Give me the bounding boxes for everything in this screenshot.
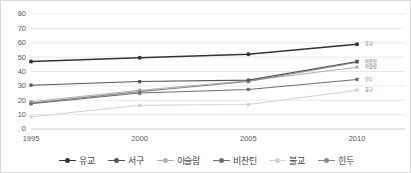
data-point-marker: [355, 60, 358, 63]
x-axis-tick-label: 2010: [349, 134, 366, 143]
legend-item-유교[interactable]: 유교: [59, 154, 95, 167]
legend-item-비잔틴[interactable]: 비잔틴: [213, 154, 256, 167]
series-line: [31, 44, 357, 61]
data-point-marker: [138, 91, 141, 94]
legend-item-label: 이슬람: [177, 154, 200, 167]
legend-item-label: 서구: [128, 154, 144, 167]
legend-item-label: 비잔틴: [233, 154, 256, 167]
series-5: [29, 61, 358, 105]
legend-item-서구[interactable]: 서구: [108, 154, 144, 167]
data-point-marker: [29, 59, 33, 63]
y-axis-tick-label: 20: [18, 96, 26, 105]
y-axis-tick-label: 40: [18, 67, 26, 76]
legend-item-label: 불교: [289, 154, 305, 167]
y-axis-tick-label: 80: [18, 9, 26, 18]
legend-item-불교[interactable]: 불교: [269, 154, 305, 167]
data-point-marker: [355, 78, 358, 81]
series-end-label: 유교: [365, 41, 373, 47]
data-point-marker: [29, 115, 32, 118]
data-point-marker: [246, 52, 250, 56]
chart-container: 807060504030201001995200020052010유교비잔틴이슬…: [0, 0, 411, 173]
data-point-marker: [247, 79, 250, 82]
y-axis-tick-label: 50: [18, 53, 26, 62]
legend-item-label: 힌두: [338, 154, 354, 167]
data-point-marker: [247, 103, 250, 106]
series-end-label: 불교: [365, 86, 373, 92]
y-axis-tick-label: 10: [18, 110, 26, 119]
legend-marker-icon: [213, 157, 230, 165]
data-point-marker: [355, 89, 358, 92]
legend-marker-icon: [269, 157, 286, 165]
data-point-marker: [138, 56, 142, 60]
series-3: [29, 78, 358, 106]
data-point-marker: [29, 84, 32, 87]
legend-marker-icon: [157, 157, 174, 165]
data-point-marker: [138, 104, 141, 107]
data-point-marker: [138, 80, 141, 83]
legend-item-힌두[interactable]: 힌두: [318, 154, 354, 167]
legend-item-이슬람[interactable]: 이슬람: [157, 154, 200, 167]
series-end-label: 힌두: [365, 76, 373, 83]
plot-area: 807060504030201001995200020052010유교비잔틴이슬…: [1, 1, 411, 147]
legend-marker-icon: [108, 157, 125, 165]
series-line: [31, 90, 357, 117]
chart-legend: 유교서구이슬람비잔틴불교힌두: [1, 148, 411, 173]
x-axis-tick-label: 2000: [131, 134, 148, 143]
data-point-marker: [29, 102, 32, 105]
series-end-label: 이슬람: [365, 63, 377, 70]
line-chart-svg: 807060504030201001995200020052010유교비잔틴이슬…: [1, 1, 411, 147]
legend-item-label: 유교: [79, 154, 95, 167]
y-axis-tick-label: 30: [18, 81, 26, 90]
y-axis-tick-label: 0: [22, 124, 26, 133]
data-point-marker: [355, 66, 358, 69]
legend-marker-icon: [59, 157, 76, 165]
series-4: [29, 89, 358, 119]
data-point-marker: [355, 42, 359, 46]
y-axis-tick-label: 60: [18, 38, 26, 47]
x-axis-tick-label: 2005: [240, 134, 257, 143]
x-axis-tick-label: 1995: [23, 134, 40, 143]
y-axis-tick-label: 70: [18, 24, 26, 33]
series-0: [29, 42, 359, 63]
data-point-marker: [247, 88, 250, 91]
legend-marker-icon: [318, 157, 335, 165]
